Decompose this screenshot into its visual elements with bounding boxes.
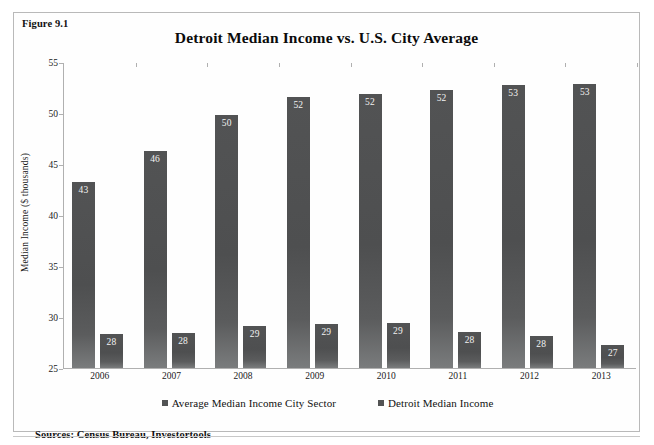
bar-value-label: 28 — [530, 339, 553, 349]
bar-value-label: 28 — [100, 337, 123, 347]
y-tick-label: 30 — [30, 313, 58, 323]
bar-detroit-2012: 28 — [530, 336, 553, 368]
x-tick-label-2006: 2006 — [68, 371, 132, 381]
bar-detroit-2008: 29 — [243, 326, 266, 368]
bar-value-label: 52 — [287, 100, 310, 110]
bar-detroit-2010: 29 — [387, 323, 410, 368]
bar-avg-city-2010: 52 — [359, 94, 382, 368]
legend-swatch-icon — [162, 400, 168, 406]
bar-group: 5228 — [422, 63, 494, 368]
bar-value-label: 46 — [144, 154, 167, 164]
x-tick-label-2008: 2008 — [211, 371, 275, 381]
bar-detroit-2011: 28 — [458, 332, 481, 368]
bar-value-label: 53 — [502, 88, 525, 98]
source-note: Sources: Census Bureau, Investortools — [35, 429, 211, 440]
bar-group: 5229 — [279, 63, 351, 368]
bar-detroit-2013: 27 — [601, 345, 624, 368]
bar-detroit-2006: 28 — [100, 334, 123, 368]
legend-label: Average Median Income City Sector — [172, 397, 336, 409]
bar-value-label: 28 — [172, 336, 195, 346]
bar-detroit-2007: 28 — [172, 333, 195, 368]
x-tick-label-2010: 2010 — [354, 371, 418, 381]
bar-value-label: 53 — [573, 87, 596, 97]
bar-detroit-2009: 29 — [315, 324, 338, 368]
bar-avg-city-2009: 52 — [287, 97, 310, 368]
y-tick-label: 55 — [30, 58, 58, 68]
x-tick-label-2012: 2012 — [498, 371, 562, 381]
bar-group: 4328 — [64, 63, 136, 368]
legend-item-avg-city[interactable]: Average Median Income City Sector — [162, 397, 336, 409]
x-tick-label-2007: 2007 — [139, 371, 203, 381]
x-tick-mark — [565, 63, 566, 67]
bar-group: 5328 — [494, 63, 566, 368]
x-tick-label-2009: 2009 — [283, 371, 347, 381]
plot-area: 25303540455055 4328462850295229522952285… — [63, 63, 636, 369]
bar-avg-city-2013: 53 — [573, 84, 596, 368]
bar-avg-city-2012: 53 — [502, 85, 525, 368]
bar-group: 5327 — [565, 63, 637, 368]
bar-avg-city-2008: 50 — [215, 115, 238, 368]
x-tick-mark — [351, 63, 352, 67]
bar-avg-city-2007: 46 — [144, 151, 167, 368]
bar-value-label: 50 — [215, 118, 238, 128]
x-tick-mark — [494, 63, 495, 67]
bar-value-label: 52 — [430, 93, 453, 103]
x-tick-label-2011: 2011 — [426, 371, 490, 381]
y-tick-label: 50 — [30, 109, 58, 119]
x-tick-mark — [279, 63, 280, 67]
chart-legend: Average Median Income City SectorDetroit… — [14, 397, 641, 409]
y-tick-label: 45 — [30, 160, 58, 170]
legend-item-detroit[interactable]: Detroit Median Income — [378, 397, 493, 409]
y-tick-label: 40 — [30, 211, 58, 221]
y-tick-label: 25 — [30, 364, 58, 374]
bar-value-label: 29 — [315, 327, 338, 337]
bar-avg-city-2006: 43 — [72, 182, 95, 368]
x-tick-mark — [207, 63, 208, 67]
x-tick-mark — [422, 63, 423, 67]
bar-group: 5029 — [207, 63, 279, 368]
bar-value-label: 27 — [601, 348, 624, 358]
y-tick-label: 35 — [30, 262, 58, 272]
x-tick-label-2013: 2013 — [569, 371, 633, 381]
bar-value-label: 29 — [387, 326, 410, 336]
bar-group: 5229 — [351, 63, 423, 368]
bar-value-label: 29 — [243, 329, 266, 339]
x-tick-mark — [136, 63, 137, 67]
bar-avg-city-2011: 52 — [430, 90, 453, 368]
figure-frame: Figure 9.1 Detroit Median Income vs. U.S… — [13, 12, 640, 432]
x-tick-mark — [637, 63, 638, 67]
legend-label: Detroit Median Income — [388, 397, 493, 409]
bar-value-label: 43 — [72, 185, 95, 195]
legend-swatch-icon — [378, 400, 384, 406]
chart-canvas: Median Income ($ thousands) 253035404550… — [14, 13, 641, 433]
bar-value-label: 52 — [359, 97, 382, 107]
bar-value-label: 28 — [458, 335, 481, 345]
source-divider — [13, 436, 640, 437]
bar-group: 4628 — [136, 63, 208, 368]
